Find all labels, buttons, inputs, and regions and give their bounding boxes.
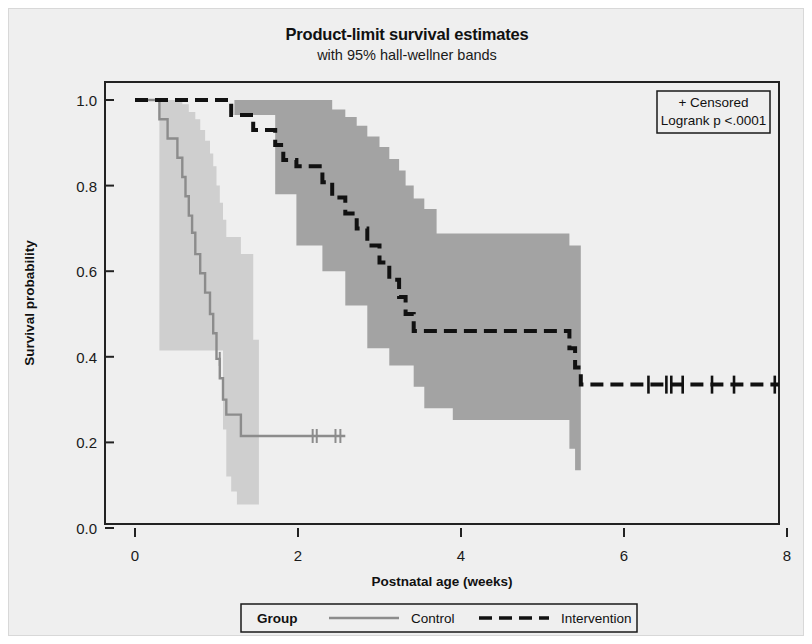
legend-label-intervention: Intervention	[561, 611, 632, 626]
x-tick-label-6: 6	[620, 547, 628, 564]
survival-plot: 024680.00.20.40.60.81.0 Postnatal age (w…	[9, 9, 805, 637]
y-tick-label-0.2: 0.2	[76, 434, 97, 451]
y-tick-label-0.0: 0.0	[76, 520, 97, 537]
y-tick-label-0.6: 0.6	[76, 263, 97, 280]
figure-panel: Product-limit survival estimates with 95…	[8, 8, 804, 636]
logrank-p-label: Logrank p <.0001	[661, 113, 766, 128]
x-tick-label-0: 0	[131, 547, 139, 564]
censored-legend-label: + Censored	[678, 95, 748, 110]
y-tick-label-0.4: 0.4	[76, 349, 97, 366]
y-tick-label-1.0: 1.0	[76, 92, 97, 109]
y-tick-label-0.8: 0.8	[76, 178, 97, 195]
legend-label-control: Control	[411, 611, 455, 626]
x-tick-label-2: 2	[294, 547, 302, 564]
confidence-bands-group	[135, 100, 581, 505]
y-axis-title: Survival probability	[22, 240, 37, 366]
group-legend: Group Control Intervention	[241, 604, 637, 632]
x-tick-label-4: 4	[457, 547, 465, 564]
legend-group-label: Group	[257, 611, 298, 626]
x-tick-label-8: 8	[783, 547, 791, 564]
x-axis-title: Postnatal age (weeks)	[371, 574, 512, 589]
confidence-band-control	[135, 100, 259, 505]
stats-annotation-box: + Censored Logrank p <.0001	[657, 91, 770, 133]
